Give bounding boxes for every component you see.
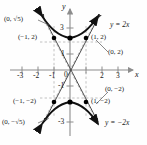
label-asymptote-negative: y = −2x <box>105 119 129 127</box>
label-point-right-up: (1, 2) <box>91 34 106 41</box>
x-tick--1: -1 <box>49 72 55 80</box>
hyperbola-figure: y x 0 -3 -2 -1 2 3 3 1 -1 -3 (0, √5) (0,… <box>0 0 147 145</box>
label-point-center-down: (0, −2) <box>105 86 124 93</box>
y-tick--3: -3 <box>58 118 64 126</box>
x-tick-3: 3 <box>116 72 120 80</box>
y-tick-3: 3 <box>60 24 64 32</box>
label-point-left-down: (−1, −2) <box>13 98 36 105</box>
label-point-center-up: (0, 2) <box>108 49 123 56</box>
origin-label: 0 <box>64 71 68 79</box>
label-asymptote-positive: y = 2x <box>110 21 129 29</box>
x-tick-2: 2 <box>100 72 104 80</box>
label-y-intercept-negative: (0, −√5) <box>2 119 25 126</box>
y-tick--1: -1 <box>58 82 64 90</box>
label-point-right-down: (1, −2) <box>91 98 110 105</box>
label-point-left-up: (−1, 2) <box>18 34 37 41</box>
y-tick-1: 1 <box>61 50 65 58</box>
label-y-intercept-positive: (0, √5) <box>4 16 23 23</box>
x-tick--2: -2 <box>33 72 39 80</box>
x-tick--3: -3 <box>17 72 23 80</box>
x-axis-label: x <box>135 71 139 79</box>
y-axis-label: y <box>62 3 66 11</box>
